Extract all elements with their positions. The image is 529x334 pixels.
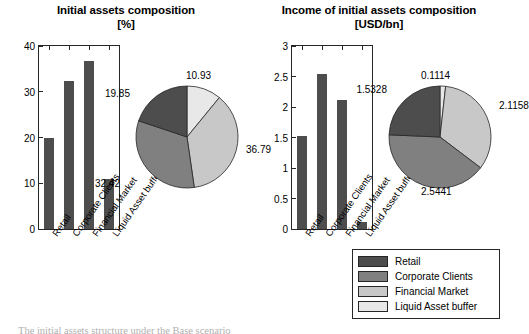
pie-value-label: 1.5328 bbox=[356, 84, 387, 95]
y-axis-tick-label: 2.5 bbox=[274, 71, 292, 82]
legend-item-label: Retail bbox=[395, 256, 421, 267]
pie-chart-income: 0.11142.11582.54411.5328 bbox=[381, 78, 499, 196]
legend: RetailCorporate ClientsFinancial MarketL… bbox=[352, 249, 500, 319]
legend-item-label: Liquid Asset buffer bbox=[395, 301, 477, 312]
legend-item: Financial Market bbox=[358, 284, 494, 299]
pie-value-label: 19.85 bbox=[105, 88, 130, 99]
legend-swatch bbox=[358, 301, 388, 312]
chart-unit-text: [USD/bn] bbox=[253, 18, 505, 32]
x-axis-tick bbox=[69, 46, 70, 50]
y-axis-tick-label: 30 bbox=[24, 86, 39, 97]
pie-value-label: 10.93 bbox=[186, 70, 211, 81]
chart-title-text: Income of initial assets composition bbox=[282, 4, 477, 16]
pie-value-label: 2.5441 bbox=[421, 186, 452, 197]
y-axis-tick-label: 1.5 bbox=[274, 132, 292, 143]
legend-swatch bbox=[358, 271, 388, 282]
figure-caption: The initial assets structure under the B… bbox=[18, 325, 231, 334]
bar bbox=[64, 81, 74, 229]
chart-title-initial-assets: Initial assets composition [%] bbox=[0, 4, 252, 31]
x-axis-tick bbox=[49, 46, 50, 50]
legend-item: Liquid Asset buffer bbox=[358, 299, 494, 314]
x-axis-tick bbox=[109, 46, 110, 50]
bar bbox=[317, 74, 327, 229]
chart-title-income: Income of initial assets composition [US… bbox=[253, 4, 505, 31]
legend-item: Retail bbox=[358, 254, 494, 269]
x-axis-tick bbox=[362, 46, 363, 50]
bar-plot-initial-assets: 010203040 bbox=[38, 45, 120, 230]
pie-slices-income bbox=[389, 86, 491, 188]
pie-value-label: 32.42 bbox=[95, 178, 120, 189]
y-axis-tick-label: 2 bbox=[282, 102, 292, 113]
x-axis-tick bbox=[89, 46, 90, 50]
bar bbox=[44, 138, 54, 229]
legend-item: Corporate Clients bbox=[358, 269, 494, 284]
y-axis-tick-label: 40 bbox=[24, 41, 39, 52]
pie-value-label: 2.1158 bbox=[499, 100, 529, 111]
y-axis-tick-label: 1 bbox=[282, 163, 292, 174]
pie-value-label: 0.1114 bbox=[421, 70, 450, 81]
bar bbox=[297, 136, 307, 230]
pie-slices-initial-assets bbox=[136, 86, 238, 188]
legend-item-label: Corporate Clients bbox=[395, 271, 473, 282]
y-axis-tick-label: 10 bbox=[24, 178, 39, 189]
chart-group-initial-assets: Initial assets composition [%] 010203040… bbox=[0, 0, 252, 318]
x-axis-tick bbox=[302, 46, 303, 50]
pie-chart-initial-assets: 10.9336.7932.4219.85 bbox=[128, 78, 246, 196]
chart-title-text: Initial assets composition bbox=[57, 4, 195, 16]
legend-swatch bbox=[358, 286, 388, 297]
chart-unit-text: [%] bbox=[0, 18, 252, 32]
bar-plot-income: 00.511.522.53 bbox=[291, 45, 373, 230]
bar-xaxis-labels-initial-assets: RetailCorporate ClientsFinancial MarketL… bbox=[38, 232, 168, 318]
y-axis-tick-label: 20 bbox=[24, 132, 39, 143]
legend-swatch bbox=[358, 256, 388, 267]
x-axis-tick bbox=[322, 46, 323, 50]
y-axis-tick-label: 3 bbox=[282, 41, 292, 52]
legend-item-label: Financial Market bbox=[395, 286, 468, 297]
pie-slice bbox=[389, 86, 440, 137]
y-axis-tick-label: 0.5 bbox=[274, 193, 292, 204]
x-axis-tick bbox=[342, 46, 343, 50]
